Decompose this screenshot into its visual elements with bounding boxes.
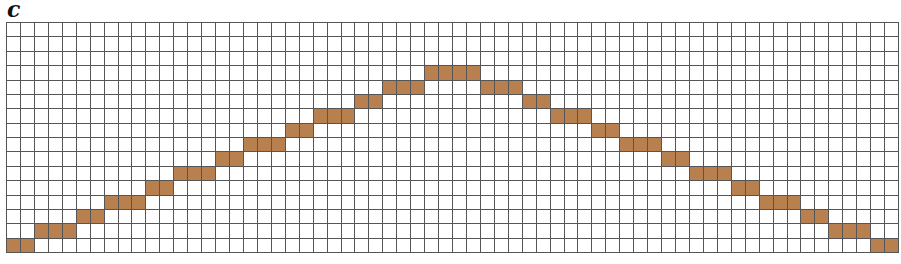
grid-cell	[788, 138, 802, 152]
grid-cell	[760, 109, 774, 123]
grid-cell	[174, 124, 188, 138]
grid-cell	[21, 196, 35, 210]
grid-cell	[857, 196, 871, 210]
grid-cell	[481, 109, 495, 123]
grid-cell	[606, 109, 620, 123]
grid-cell	[397, 95, 411, 109]
grid-cell	[774, 167, 788, 181]
grid-cell	[578, 167, 592, 181]
grid-cell	[774, 138, 788, 152]
grid-cell	[369, 124, 383, 138]
grid-cell	[592, 224, 606, 238]
grid-cell	[160, 239, 174, 253]
grid-cell	[592, 66, 606, 80]
grid-cell	[704, 37, 718, 51]
grid-cell	[495, 224, 509, 238]
grid-cell	[216, 66, 230, 80]
grid-cell	[202, 224, 216, 238]
grid-cell	[885, 167, 899, 181]
grid-cell	[788, 52, 802, 66]
grid-cell	[843, 196, 857, 210]
grid-cell	[481, 224, 495, 238]
grid-cell	[481, 181, 495, 195]
grid-cell	[91, 23, 105, 37]
grid-cell	[718, 210, 732, 224]
grid-cell	[314, 181, 328, 195]
grid-cell	[815, 109, 829, 123]
grid-cell	[91, 52, 105, 66]
grid-cell	[77, 66, 91, 80]
grid-cell	[871, 138, 885, 152]
grid-cell	[620, 239, 634, 253]
grid-cell	[843, 52, 857, 66]
grid-cell	[690, 81, 704, 95]
grid-cell	[453, 181, 467, 195]
grid-cell	[871, 181, 885, 195]
grid-cell	[355, 167, 369, 181]
grid-cell	[146, 124, 160, 138]
grid-cell	[843, 109, 857, 123]
grid-cell	[551, 167, 565, 181]
grid-cell	[718, 239, 732, 253]
grid-cell	[63, 152, 77, 166]
grid-cell	[174, 52, 188, 66]
grid-cell	[7, 52, 21, 66]
filled-cell	[7, 239, 21, 253]
grid-cell	[342, 196, 356, 210]
grid-cell	[481, 196, 495, 210]
grid-cell	[91, 95, 105, 109]
grid-cell	[857, 66, 871, 80]
grid-cell	[815, 224, 829, 238]
grid-cell	[230, 239, 244, 253]
grid-cell	[857, 239, 871, 253]
grid-cell	[244, 181, 258, 195]
filled-cell	[815, 210, 829, 224]
grid-cell	[49, 66, 63, 80]
grid-cell	[606, 181, 620, 195]
grid-cell	[676, 52, 690, 66]
grid-cell	[592, 95, 606, 109]
grid-cell	[774, 152, 788, 166]
grid-cell	[369, 37, 383, 51]
filled-cell	[565, 109, 579, 123]
grid-cell	[21, 224, 35, 238]
grid-cell	[272, 81, 286, 95]
grid-cell	[146, 196, 160, 210]
grid-cell	[160, 224, 174, 238]
grid-cell	[314, 37, 328, 51]
grid-cell	[216, 52, 230, 66]
grid-cell	[760, 152, 774, 166]
grid-cell	[732, 239, 746, 253]
grid-cell	[160, 196, 174, 210]
grid-cell	[411, 152, 425, 166]
grid-cell	[314, 23, 328, 37]
grid-cell	[509, 23, 523, 37]
grid-cell	[592, 81, 606, 95]
grid-cell	[537, 23, 551, 37]
grid-cell	[801, 23, 815, 37]
grid-cell	[648, 52, 662, 66]
grid-cell	[328, 23, 342, 37]
grid-cell	[523, 109, 537, 123]
grid-cell	[843, 181, 857, 195]
grid-cell	[7, 152, 21, 166]
grid-cell	[565, 52, 579, 66]
grid-cell	[481, 210, 495, 224]
grid-cell	[174, 196, 188, 210]
grid-cell	[369, 109, 383, 123]
grid-cell	[634, 52, 648, 66]
grid-cell	[7, 81, 21, 95]
grid-cell	[648, 196, 662, 210]
grid-cell	[355, 196, 369, 210]
grid-cell	[788, 23, 802, 37]
grid-cell	[286, 109, 300, 123]
grid-cell	[119, 81, 133, 95]
grid-cell	[704, 224, 718, 238]
filled-cell	[286, 124, 300, 138]
grid-cell	[202, 95, 216, 109]
grid-cell	[606, 224, 620, 238]
grid-cell	[105, 210, 119, 224]
grid-cell	[202, 181, 216, 195]
grid-cell	[551, 196, 565, 210]
grid-cell	[244, 210, 258, 224]
